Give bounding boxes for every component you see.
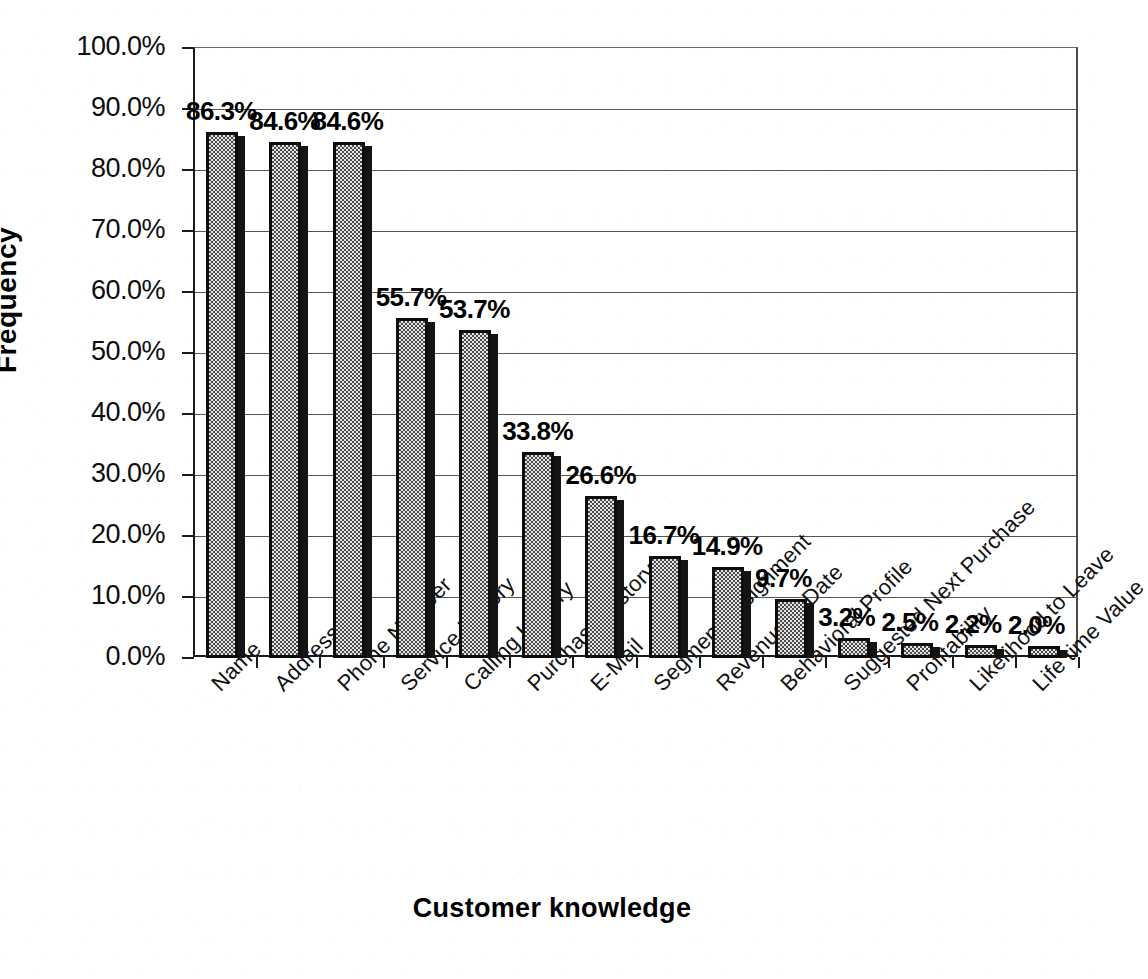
bar-value-label: 16.7%	[629, 522, 700, 548]
y-tick-label: 80.0%	[0, 155, 165, 182]
y-tick-label: 0.0%	[0, 643, 165, 670]
bar-value-label: 26.6%	[565, 462, 636, 488]
y-tick-label: 20.0%	[0, 521, 165, 548]
bar[interactable]	[901, 643, 933, 658]
bar[interactable]	[838, 638, 870, 658]
bar-value-label: 14.9%	[692, 533, 763, 559]
bar-value-label: 2.2%	[945, 611, 1002, 637]
bar[interactable]	[522, 452, 554, 658]
bar-value-label: 53.7%	[439, 296, 510, 322]
bar[interactable]	[333, 142, 365, 658]
bar-value-label: 2.0%	[1008, 612, 1065, 638]
x-axis-title: Customer knowledge	[0, 893, 1104, 924]
y-tick-label: 50.0%	[0, 338, 165, 365]
bar-value-label: 84.6%	[313, 108, 384, 134]
gridline	[195, 414, 1076, 415]
bar[interactable]	[396, 318, 428, 658]
bar-value-label: 84.6%	[249, 108, 320, 134]
gridline	[195, 353, 1076, 354]
bar[interactable]	[649, 556, 681, 658]
gridline	[195, 292, 1076, 293]
gridline	[195, 170, 1076, 171]
bar[interactable]	[585, 496, 617, 658]
bar[interactable]	[459, 330, 491, 658]
y-tick-label: 30.0%	[0, 460, 165, 487]
y-tick-label: 10.0%	[0, 582, 165, 609]
bar[interactable]	[1028, 646, 1060, 658]
y-tick-mark	[182, 657, 194, 659]
y-tick-label: 60.0%	[0, 277, 165, 304]
bar[interactable]	[775, 599, 807, 658]
bar[interactable]	[269, 142, 301, 658]
bar[interactable]	[206, 132, 238, 658]
gridline	[195, 231, 1076, 232]
bar[interactable]	[965, 645, 997, 658]
y-tick-label: 90.0%	[0, 94, 165, 121]
y-tick-label: 70.0%	[0, 216, 165, 243]
bar-value-label: 3.2%	[818, 604, 875, 630]
y-tick-label: 40.0%	[0, 399, 165, 426]
bar-value-label: 55.7%	[376, 284, 447, 310]
bar-value-label: 86.3%	[186, 98, 257, 124]
bar[interactable]	[712, 567, 744, 658]
bar-value-label: 33.8%	[502, 418, 573, 444]
bar-value-label: 9.7%	[755, 565, 812, 591]
bar-value-label: 2.5%	[881, 609, 938, 635]
y-tick-label: 100.0%	[0, 33, 165, 60]
